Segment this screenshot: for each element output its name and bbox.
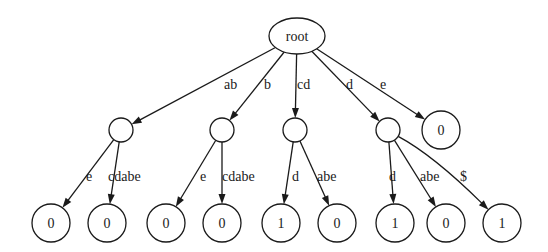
node-n_cd	[283, 118, 307, 142]
node-label: 0	[219, 216, 226, 231]
node-circle	[109, 118, 133, 142]
edge-label: e	[200, 169, 206, 184]
node-label: 1	[392, 216, 399, 231]
node-l8: 0	[427, 204, 465, 242]
nodes-layer: root0000010101	[32, 18, 521, 242]
node-circle	[283, 118, 307, 142]
edge-line	[312, 51, 374, 115]
suffix-tree-diagram: abbcddeecdabeecdabedabedabe$ root0000010…	[0, 0, 548, 252]
edge-line	[317, 49, 418, 115]
edge-root-n_e: e	[317, 49, 425, 120]
node-l2: 0	[88, 204, 126, 242]
edge-label: d	[389, 169, 396, 184]
node-l1: 0	[32, 204, 70, 242]
edge-label: ab	[224, 77, 237, 92]
edge-line	[180, 140, 215, 199]
arrowhead-icon	[62, 198, 71, 208]
edge-line	[235, 52, 284, 114]
node-l9: 1	[483, 204, 521, 242]
edge-n_cd-l5: d	[282, 142, 299, 204]
arrowhead-icon	[219, 194, 226, 204]
node-root: root	[269, 18, 325, 54]
node-label: 0	[334, 216, 341, 231]
edge-root-n_b: b	[229, 52, 284, 121]
arrowhead-icon	[132, 117, 142, 125]
node-label: 0	[48, 216, 55, 231]
edge-label: cdabe	[222, 169, 255, 184]
edge-label: cd	[297, 77, 310, 92]
arrowhead-icon	[322, 195, 329, 206]
node-label: 1	[278, 216, 285, 231]
node-n_b	[210, 118, 234, 142]
arrowhead-icon	[415, 111, 425, 119]
edge-label: d	[292, 169, 299, 184]
edge-label: b	[264, 77, 271, 92]
arrowhead-icon	[292, 108, 299, 118]
edge-root-n_ab: ab	[132, 48, 276, 125]
edge-root-n_cd: cd	[292, 54, 310, 118]
edge-label: cdabe	[108, 169, 141, 184]
edge-label: e	[380, 77, 386, 92]
node-label: root	[286, 29, 309, 44]
arrowhead-icon	[428, 197, 436, 207]
node-l4: 0	[203, 204, 241, 242]
edge-n_d-l8: abe	[394, 140, 439, 207]
node-l5: 1	[262, 204, 300, 242]
edge-label: $	[460, 169, 467, 184]
node-n_e: 0	[422, 111, 460, 149]
edge-root-n_d: d	[312, 51, 380, 121]
arrowhead-icon	[176, 196, 184, 206]
edge-label: abe	[317, 169, 336, 184]
edge-n_ab-l1: e	[62, 140, 113, 208]
arrowhead-icon	[108, 194, 115, 204]
arrowhead-icon	[229, 111, 238, 121]
arrowhead-icon	[389, 194, 396, 204]
edge-n_b-l3: e	[176, 140, 216, 206]
node-label: 1	[499, 216, 506, 231]
node-l3: 0	[147, 204, 185, 242]
node-label: 0	[163, 216, 170, 231]
edge-label: e	[86, 169, 92, 184]
edge-label: abe	[420, 169, 439, 184]
edge-label: d	[346, 77, 353, 92]
edge-line	[140, 48, 276, 121]
node-label: 0	[438, 123, 445, 138]
arrowhead-icon	[282, 194, 289, 204]
node-circle	[210, 118, 234, 142]
edge-n_cd-l6: abe	[300, 141, 336, 206]
node-l7: 1	[376, 204, 414, 242]
node-label: 0	[104, 216, 111, 231]
node-label: 0	[443, 216, 450, 231]
edge-n_b-l4: cdabe	[219, 142, 255, 204]
edge-n_ab-l2: cdabe	[108, 142, 141, 204]
node-l6: 0	[318, 204, 356, 242]
node-n_d	[376, 118, 400, 142]
node-circle	[376, 118, 400, 142]
node-n_ab	[109, 118, 133, 142]
edge-n_d-l7: d	[389, 142, 396, 204]
